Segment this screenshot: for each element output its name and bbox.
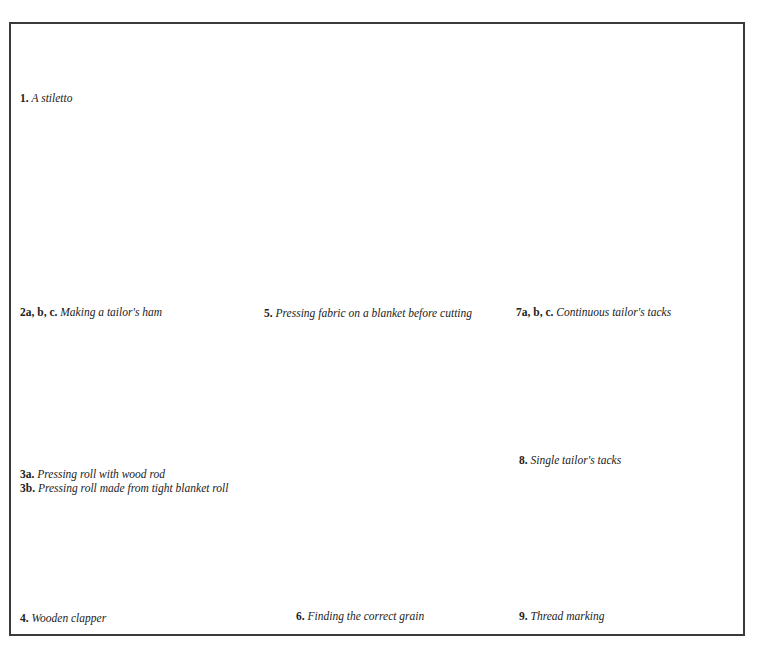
svg-text:snip: snip	[612, 98, 632, 110]
caption: A stiletto	[32, 92, 73, 104]
panel-number: 7a, b, c.	[516, 306, 553, 318]
panel-number: 8.	[519, 454, 528, 466]
svg-text:for adjustments: for adjustments	[302, 387, 378, 399]
svg-text:b: b	[202, 445, 209, 459]
svg-text:DAMPENED CLOTH: DAMPENED CLOTH	[340, 266, 452, 280]
panel-number: 6.	[296, 610, 305, 622]
svg-text:snip: snip	[640, 285, 659, 296]
panel-number: 5.	[264, 307, 273, 319]
svg-text:SELVEDGES: SELVEDGES	[473, 434, 485, 500]
svg-text:X": X"	[432, 358, 443, 370]
svg-text:1" seam allowance: 1" seam allowance	[295, 374, 387, 386]
panel-number: 9.	[519, 610, 528, 622]
svg-text:CENTRE BACK FOLD: CENTRE BACK FOLD	[556, 494, 677, 508]
svg-text:c: c	[35, 283, 41, 297]
svg-text:b: b	[228, 239, 235, 253]
svg-text:a: a	[530, 46, 536, 58]
caption: Continuous tailor's tacks	[556, 306, 671, 318]
svg-text:FOLD: FOLD	[279, 455, 291, 484]
svg-text:BLANKET: BLANKET	[350, 43, 405, 57]
svg-text:8": 8"	[83, 166, 94, 180]
panel-number: 3a.	[20, 468, 34, 480]
svg-text:X": X"	[432, 336, 443, 348]
svg-text:snip: snip	[573, 355, 592, 367]
svg-text:a: a	[150, 155, 156, 169]
panel-number: 2a, b, c.	[20, 306, 57, 318]
caption: Pressing fabric on a blanket before cutt…	[276, 307, 473, 319]
caption: Single tailor's tacks	[531, 454, 622, 466]
caption: Making a tailor's ham	[60, 306, 162, 318]
panel-number: 3b.	[20, 482, 35, 494]
panel-number: 4.	[20, 612, 29, 624]
svg-text:c: c	[530, 180, 535, 192]
svg-text:Y": Y"	[426, 566, 437, 578]
svg-text:WRONG SIDE OF FABRIC: WRONG SIDE OF FABRIC	[302, 114, 453, 128]
caption: Thread marking	[531, 610, 605, 622]
svg-text:DRY IRON: DRY IRON	[388, 242, 446, 256]
svg-text:snip: snip	[660, 391, 679, 403]
svg-text:12": 12"	[96, 187, 114, 201]
caption: Wooden clapper	[32, 612, 107, 624]
svg-text:PATTERN: PATTERN	[521, 84, 573, 96]
caption: Finding the correct grain	[308, 610, 425, 622]
svg-text:b: b	[648, 46, 654, 58]
caption: Pressing roll with wood rod	[37, 468, 165, 480]
svg-text:PATTERN: PATTERN	[560, 330, 612, 342]
svg-text:Y": Y"	[426, 484, 437, 496]
panel-number: 1.	[20, 92, 29, 104]
svg-text:a: a	[22, 386, 28, 400]
caption: Pressing roll made from tight blanket ro…	[38, 482, 229, 494]
